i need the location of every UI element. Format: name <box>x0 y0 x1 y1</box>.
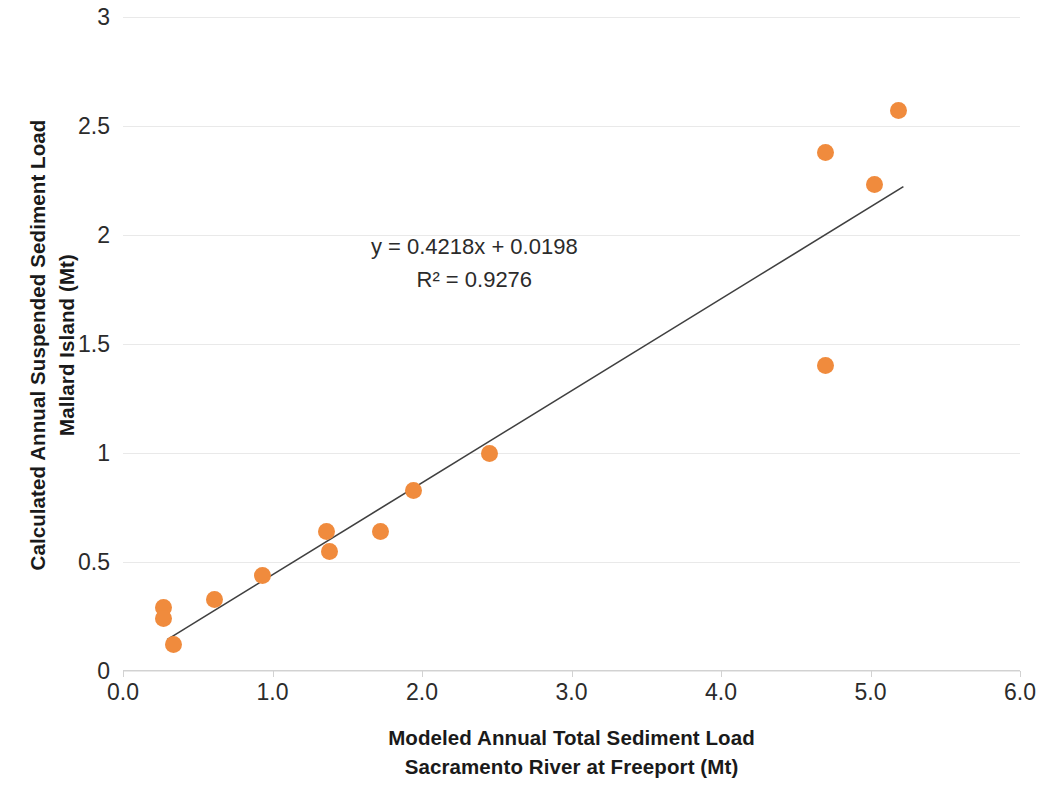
x-axis-title-line-1: Modeled Annual Total Sediment Load <box>123 723 1020 752</box>
x-tickmark <box>721 671 722 677</box>
regression-annotation: y = 0.4218x + 0.0198 R² = 0.9276 <box>304 230 644 296</box>
data-point <box>254 567 271 584</box>
x-axis-title: Modeled Annual Total Sediment Load Sacra… <box>123 723 1020 781</box>
x-tick-label: 3.0 <box>527 679 617 706</box>
y-tick-label: 0.5 <box>46 549 110 576</box>
x-tickmark <box>422 671 423 677</box>
data-point <box>155 610 172 627</box>
y-tick-label: 2.5 <box>46 113 110 140</box>
y-tick-label: 3 <box>46 4 110 31</box>
x-tick-label: 2.0 <box>377 679 467 706</box>
y-tick-label: 1 <box>46 440 110 467</box>
x-tickmark <box>1020 671 1021 677</box>
x-tickmark <box>572 671 573 677</box>
x-tickmark <box>123 671 124 677</box>
x-tickmark <box>871 671 872 677</box>
data-point <box>318 523 335 540</box>
data-point <box>817 144 834 161</box>
x-tickmark <box>273 671 274 677</box>
y-axis-tick-labels: 00.511.522.53 <box>38 0 110 787</box>
r-squared-value: R² = 0.9276 <box>304 263 644 296</box>
regression-equation: y = 0.4218x + 0.0198 <box>304 230 644 263</box>
plot-area: y = 0.4218x + 0.0198 R² = 0.9276 <box>123 17 1020 671</box>
y-tick-label: 1.5 <box>46 331 110 358</box>
data-point <box>405 482 422 499</box>
data-point <box>481 445 498 462</box>
y-tick-label: 2 <box>46 222 110 249</box>
scatter-chart: Calculated Annual Suspended Sediment Loa… <box>0 0 1038 787</box>
x-tick-label: 0.0 <box>78 679 168 706</box>
x-tick-label: 4.0 <box>676 679 766 706</box>
x-tick-label: 6.0 <box>975 679 1038 706</box>
data-point <box>321 543 338 560</box>
data-point <box>372 523 389 540</box>
data-point <box>206 591 223 608</box>
x-tick-label: 1.0 <box>228 679 318 706</box>
x-tick-label: 5.0 <box>826 679 916 706</box>
x-axis-title-line-2: Sacramento River at Freeport (Mt) <box>123 752 1020 781</box>
